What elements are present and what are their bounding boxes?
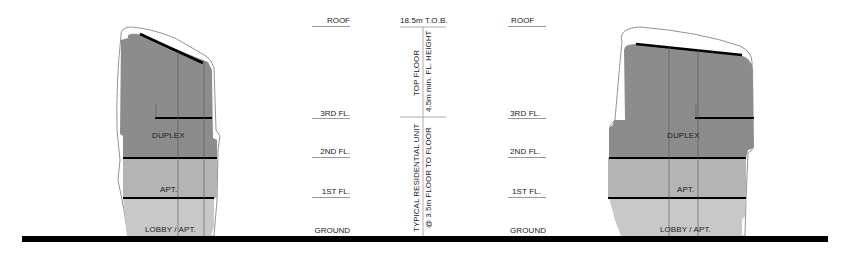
right-lobby-label: LOBBY / APT.: [660, 225, 711, 234]
right-level-3rd: 3RD FL.: [510, 109, 541, 118]
right-level-roof-line: [508, 26, 546, 27]
right-level-1st-line: [508, 197, 546, 198]
left-duplex-label: DUPLEX: [152, 131, 185, 140]
right-apt-label: APT.: [677, 185, 694, 194]
left-level-roof-line: [312, 26, 350, 27]
right-duplex-label: DUPLEX: [667, 131, 700, 140]
typical-unit-label: TYPICAL RESIDENTIAL UNIT: [412, 124, 421, 232]
left-apt-label: APT.: [160, 185, 177, 194]
left-level-1st-line: [312, 197, 350, 198]
right-level-2nd-line: [508, 157, 546, 158]
left-level-2nd: 2ND FL.: [310, 147, 350, 156]
right-level-2nd: 2ND FL.: [510, 147, 541, 156]
left-level-3rd-line: [312, 118, 350, 119]
right-level-roof: ROOF: [511, 16, 535, 25]
top-floor-label: TOP FLOOR: [412, 50, 421, 96]
right-level-1st: 1ST FL.: [512, 187, 541, 196]
right-level-ground: GROUND: [510, 226, 546, 235]
right-level-3rd-line: [508, 118, 546, 119]
right-duplex-zone: [609, 44, 754, 158]
ground-line: [22, 236, 828, 242]
left-level-2nd-line: [312, 157, 350, 158]
tob-label: 18.5m T.O.B.: [400, 16, 448, 25]
left-level-ground: GROUND: [305, 226, 350, 235]
left-level-1st: 1ST FL.: [310, 187, 350, 196]
top-floor-height-label: 4.5m min. FL. HEIGHT: [424, 31, 433, 112]
left-level-roof: ROOF: [312, 16, 350, 25]
left-lobby-label: LOBBY / APT.: [145, 225, 196, 234]
left-level-3rd: 3RD FL.: [310, 109, 350, 118]
typical-floor-height-label: @ 3.5m FLOOR TO FLOOR: [424, 127, 433, 228]
